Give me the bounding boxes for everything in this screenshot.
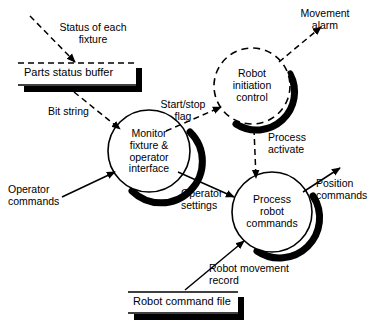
dfd-graphics (0, 0, 382, 324)
flow-bit-string[interactable] (74, 92, 120, 129)
process-monitor-fixture-operator-interface[interactable] (108, 110, 190, 192)
flow-status-of-each-fixture[interactable] (30, 16, 75, 62)
store-robot-command-file[interactable] (128, 292, 244, 317)
flow-process-activate[interactable] (254, 129, 256, 178)
flow-movement-alarm[interactable] (279, 27, 321, 62)
store-parts-status-buffer[interactable] (18, 63, 142, 89)
dfd-canvas: Monitor fixture & operator interface Rob… (0, 0, 382, 324)
process-process-robot-commands[interactable] (232, 172, 312, 252)
flow-operator-commands[interactable] (62, 172, 115, 197)
process-robot-initiation-control[interactable] (214, 48, 290, 124)
flow-robot-movement-record[interactable] (185, 241, 244, 290)
flow-position-commands[interactable] (303, 168, 340, 192)
